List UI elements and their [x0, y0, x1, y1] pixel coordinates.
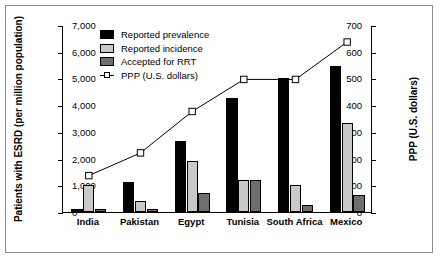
bar — [198, 193, 209, 212]
black-square-swatch — [100, 30, 114, 39]
ppp-line-marker — [137, 150, 143, 156]
legend-item-label: Reported prevalence — [121, 28, 209, 42]
y-axis-right-tick — [371, 213, 376, 214]
bar — [226, 98, 237, 212]
x-axis-category-label: Tunisia — [227, 216, 260, 227]
legend-item: PPP (U.S. dollars) — [100, 69, 209, 83]
y-axis-left-tick-label: 500 — [346, 74, 362, 84]
y-axis-left-tick-label: 700 — [346, 21, 362, 31]
bar — [187, 161, 198, 212]
light-gray-square-swatch — [100, 44, 114, 53]
y-axis-left-tick-label: 400 — [346, 101, 362, 111]
bar — [290, 185, 301, 212]
bar — [71, 209, 82, 212]
bar — [83, 185, 94, 212]
bar — [342, 123, 353, 212]
bar — [353, 195, 364, 212]
x-axis-category-label: Mexico — [330, 216, 362, 227]
bar — [302, 205, 313, 212]
bar — [238, 180, 249, 212]
y-axis-right-tick-label: 2,000 — [72, 155, 96, 165]
y-axis-right-tick — [371, 53, 376, 54]
y-axis-left-tick — [58, 186, 63, 187]
bar — [135, 201, 146, 212]
y-axis-right-title: PPP (U.S. dollars) — [408, 77, 419, 161]
x-axis-category-label: South Africa — [266, 216, 322, 227]
bar — [250, 180, 261, 212]
y-axis-left-tick — [58, 160, 63, 161]
legend-item: Accepted for RRT — [100, 55, 209, 69]
ppp-line-marker — [344, 39, 350, 45]
y-axis-right-tick-label: 3,000 — [72, 128, 96, 138]
bar — [175, 141, 186, 212]
x-axis-category-label: Egypt — [178, 216, 204, 227]
y-axis-left-tick — [58, 106, 63, 107]
legend-item: Reported prevalence — [100, 28, 209, 42]
y-axis-right-tick — [371, 79, 376, 80]
y-axis-right-tick-label: 4,000 — [72, 101, 96, 111]
chart-legend: Reported prevalenceReported incidenceAcc… — [100, 28, 209, 82]
ppp-line-marker — [241, 76, 247, 82]
y-axis-right-tick-label: 5,000 — [72, 74, 96, 84]
y-axis-right-tick-label: 7,000 — [72, 21, 96, 31]
y-axis-right-tick — [371, 186, 376, 187]
y-axis-right-tick — [371, 26, 376, 27]
y-axis-right-tick-label: 6,000 — [72, 48, 96, 58]
bar — [278, 78, 289, 212]
dark-gray-square-swatch — [100, 57, 114, 66]
y-axis-right-tick — [371, 106, 376, 107]
y-axis-left-tick — [58, 79, 63, 80]
legend-open-square-marker — [104, 72, 110, 78]
figure: Patients with ESRD (per million populati… — [0, 0, 440, 260]
bar — [95, 209, 106, 212]
open-square-line-marker — [100, 71, 114, 80]
y-axis-right-tick — [371, 133, 376, 134]
y-axis-left-tick — [58, 26, 63, 27]
ppp-line-marker — [86, 172, 92, 178]
bar — [330, 66, 341, 212]
y-axis-left-tick-label: 600 — [346, 48, 362, 58]
y-axis-left-tick — [58, 133, 63, 134]
bar — [123, 182, 134, 212]
y-axis-left-tick — [58, 213, 63, 214]
legend-item-label: Reported incidence — [121, 42, 203, 56]
ppp-line-marker — [189, 108, 195, 114]
y-axis-right-tick — [371, 160, 376, 161]
legend-item-label: Accepted for RRT — [121, 55, 196, 69]
x-axis-category-label: Pakistan — [120, 216, 159, 227]
legend-item-label: PPP (U.S. dollars) — [121, 69, 198, 83]
y-axis-left-tick — [58, 53, 63, 54]
bar — [147, 209, 158, 212]
x-axis-category-label: India — [77, 216, 99, 227]
y-axis-left-title: Patients with ESRD (per million populati… — [13, 16, 24, 222]
legend-item: Reported incidence — [100, 42, 209, 56]
ppp-line-marker — [292, 76, 298, 82]
